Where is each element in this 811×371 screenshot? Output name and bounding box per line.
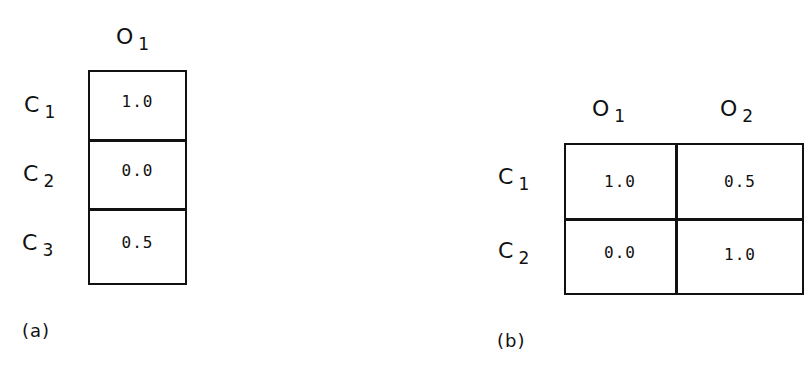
panel-b-cell: 1.0 <box>677 245 803 264</box>
panel-b-row-header-1: C1 <box>498 166 529 188</box>
panel-b-cell: 0.0 <box>565 243 675 262</box>
panel-b-col-divider <box>675 144 678 294</box>
panel-b-cell: 1.0 <box>565 172 675 191</box>
panel-a-row-header-1: C1 <box>24 94 55 116</box>
panel-a-cell: 0.5 <box>88 233 187 252</box>
panel-b-cell: 0.5 <box>677 172 803 191</box>
panel-b-col-header-2: O2 <box>720 98 753 120</box>
panel-a-col-header-1: O1 <box>116 26 149 48</box>
panel-a-cell: 0.0 <box>88 161 187 180</box>
panel-b-row-header-2: C2 <box>498 240 529 262</box>
panel-b-col-header-1: O1 <box>592 98 625 120</box>
panel-a-row-header-3: C3 <box>22 232 53 254</box>
panel-b-caption: (b) <box>497 330 525 351</box>
panel-a-cell: 1.0 <box>88 92 187 111</box>
panel-a-caption: (a) <box>22 320 50 341</box>
panel-b-row-divider <box>565 218 803 221</box>
panel-a-row-divider <box>89 208 186 211</box>
panel-a-row-header-2: C2 <box>23 163 54 185</box>
panel-a-row-divider <box>89 139 186 142</box>
